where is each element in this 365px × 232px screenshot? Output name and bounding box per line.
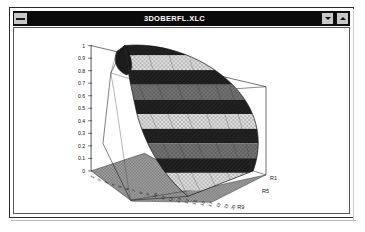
y-tick-label: 0.5 xyxy=(78,105,85,111)
y-tick-group: 0.5 xyxy=(78,105,92,111)
system-menu-button[interactable] xyxy=(13,12,28,25)
screenshot-root: 3DOBERFL.XLC xyxy=(0,0,365,232)
window-controls xyxy=(321,12,350,25)
minimize-button[interactable] xyxy=(321,12,334,25)
y-tick-label: 0.8 xyxy=(78,68,85,74)
chevron-down-icon xyxy=(325,17,331,20)
surface-right-connector-top xyxy=(236,87,266,89)
y-tick-group: 0.3 xyxy=(78,130,92,136)
depth-label-r5: R5 xyxy=(262,188,269,194)
chart-client-area[interactable]: 1 0.9 0.8 0.7 xyxy=(13,27,350,214)
band-6 xyxy=(113,99,281,114)
surface-chart[interactable]: 1 0.9 0.8 0.7 xyxy=(14,28,349,213)
band-9 xyxy=(113,55,281,70)
band-10 xyxy=(113,40,281,56)
y-tick-group: 0.1 xyxy=(78,155,92,161)
y-tick-group: 0.8 xyxy=(78,68,92,74)
y-tick-group: 0.6 xyxy=(78,93,92,99)
y-tick-label: 1 xyxy=(82,43,85,49)
x-tick-label: 1 xyxy=(90,174,96,179)
y-tick-label: 0 xyxy=(82,168,85,174)
y-tick-label: 0.6 xyxy=(78,93,85,99)
y-tick-label: 0.9 xyxy=(78,55,85,61)
y-tick-group: 0 xyxy=(82,168,92,174)
title-bar: 3DOBERFL.XLC xyxy=(13,11,350,26)
y-axis-ticks: 1 0.9 0.8 0.7 xyxy=(78,43,92,174)
band-5 xyxy=(113,114,281,129)
y-tick-label: 0.3 xyxy=(78,130,85,136)
y-tick-group: 0.2 xyxy=(78,143,92,149)
y-tick-label: 0.4 xyxy=(78,118,85,124)
surface-right-connector-bottom xyxy=(253,171,266,175)
window-drop-shadow-bottom xyxy=(11,220,356,221)
y-tick-group: 0.4 xyxy=(78,118,92,124)
y-tick-label: 0.1 xyxy=(78,155,85,161)
system-menu-icon xyxy=(16,18,25,20)
depth-label-r9: R9 xyxy=(237,204,244,210)
chevron-up-icon xyxy=(340,17,346,20)
x-tick-label: 18 xyxy=(215,201,222,208)
x-tick-label: 20 xyxy=(230,203,237,210)
y-tick-group: 0.9 xyxy=(78,55,92,61)
band-7 xyxy=(113,85,281,100)
y-tick-label: 0.2 xyxy=(78,143,85,149)
band-4 xyxy=(113,129,281,144)
y-tick-label: 0.7 xyxy=(78,80,85,86)
depth-label-r1: R1 xyxy=(270,175,277,181)
application-window: 3DOBERFL.XLC xyxy=(9,7,354,218)
y-tick-group: 0.7 xyxy=(78,80,92,86)
maximize-button[interactable] xyxy=(336,12,349,25)
window-title: 3DOBERFL.XLC xyxy=(28,14,321,23)
y-tick-group: 1 xyxy=(82,43,92,49)
window-drop-shadow-right xyxy=(353,9,354,220)
